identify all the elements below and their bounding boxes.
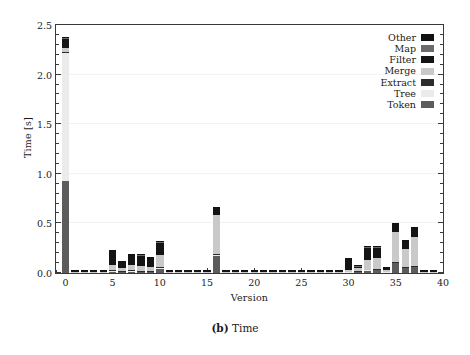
legend-label-other: Other [388,33,416,43]
bar-segment-other [307,270,314,271]
bar-stack[interactable] [128,254,135,273]
bar-segment-tree [402,267,409,268]
bar-segment-other [100,270,107,271]
legend-swatch-tree [421,90,434,97]
legend-swatch-map [421,45,434,52]
bar-stack[interactable] [373,246,380,273]
y-axis-minor-tick [56,133,59,134]
bar-segment-tree [109,271,116,272]
x-axis-tick-label: 35 [390,277,402,288]
bar-stack[interactable] [222,270,229,273]
bar-segment-other [364,246,371,247]
bar-stack[interactable] [402,240,409,273]
legend-label-map: Map [395,44,416,54]
bar-stack[interactable] [81,270,88,273]
y-axis-tick-right [438,74,443,75]
bar-segment-extract [62,52,69,53]
legend-item-filter[interactable]: Filter [381,54,434,65]
y-axis-minor-tick-right [440,232,443,233]
bar-stack[interactable] [213,207,220,273]
bar-stack[interactable] [383,267,390,273]
figure-time: Time [s] 0.00.51.01.52.02.50510152025303… [0,0,470,355]
bar-stack[interactable] [317,270,324,273]
x-axis-tick-label: 25 [295,277,307,288]
bar-stack[interactable] [232,270,239,273]
y-axis-minor-tick [56,183,59,184]
bar-stack[interactable] [260,270,267,273]
y-axis-label: Time [s] [22,93,33,183]
y-axis-tick [56,123,61,124]
bar-segment-token [156,269,163,273]
x-axis-tick-label: 5 [110,277,116,288]
bar-stack[interactable] [147,257,154,273]
bar-stack[interactable] [90,270,97,273]
bar-stack[interactable] [430,270,437,273]
bar-stack[interactable] [392,223,399,273]
bar-stack[interactable] [194,270,201,273]
bar-segment-filter [392,224,399,232]
bar-segment-filter [232,271,239,272]
bar-stack[interactable] [288,270,295,273]
bar-stack[interactable] [298,270,305,273]
bar-segment-tree [128,271,135,272]
y-axis-tick-label: 1.0 [37,168,52,179]
bar-stack[interactable] [175,270,182,273]
bar-segment-filter [62,39,69,48]
bar-stack[interactable] [156,241,163,273]
x-axis-tick [443,268,444,273]
bar-segment-filter [100,271,107,272]
legend-label-merge: Merge [384,66,416,76]
bar-stack[interactable] [345,258,352,273]
bar-segment-filter [279,271,286,272]
y-axis-tick-label: 0.0 [37,268,52,279]
y-axis-tick-label: 0.5 [37,218,52,229]
legend-item-token[interactable]: Token [381,99,434,110]
legend-item-map[interactable]: Map [381,43,434,54]
bar-stack[interactable] [184,270,191,273]
bar-stack[interactable] [354,266,361,273]
bar-stack[interactable] [118,261,125,273]
y-axis-tick-label: 2.0 [37,69,52,80]
bar-segment-other [81,270,88,271]
y-axis-minor-tick [56,93,59,94]
bar-segment-tree [373,269,380,270]
y-axis-tick [56,74,61,75]
bar-stack[interactable] [137,255,144,273]
bar-stack[interactable] [109,250,116,273]
bar-stack[interactable] [364,246,371,273]
bar-segment-other [326,270,333,271]
bar-segment-filter [288,271,295,272]
legend-swatch-filter [421,56,434,63]
y-axis-minor-tick [56,232,59,233]
bar-stack[interactable] [62,37,69,273]
bar-segment-filter [307,271,314,272]
bar-segment-tree [156,268,163,269]
legend-item-other[interactable]: Other [381,32,434,43]
bar-stack[interactable] [241,270,248,273]
bar-stack[interactable] [279,270,286,273]
bar-segment-other [71,270,78,271]
bar-stack[interactable] [251,270,258,273]
bar-stack[interactable] [100,270,107,273]
bar-stack[interactable] [335,270,342,273]
y-axis-minor-tick [56,143,59,144]
bar-stack[interactable] [307,270,314,273]
bar-stack[interactable] [269,270,276,273]
y-axis-tick [56,173,61,174]
bar-stack[interactable] [203,270,210,273]
y-axis-minor-tick-right [440,143,443,144]
bar-stack[interactable] [71,270,78,273]
bar-segment-other [335,270,342,271]
bar-segment-other [194,270,201,271]
bar-stack[interactable] [166,270,173,273]
legend-item-merge[interactable]: Merge [381,66,434,77]
bar-segment-other [420,270,427,271]
y-axis-minor-tick [56,34,59,35]
bar-stack[interactable] [420,270,427,273]
bar-stack[interactable] [411,227,418,273]
legend-item-extract[interactable]: Extract [381,77,434,88]
bar-stack[interactable] [326,270,333,273]
bar-segment-filter [81,271,88,272]
bar-segment-filter [430,270,437,272]
legend-item-tree[interactable]: Tree [381,88,434,99]
